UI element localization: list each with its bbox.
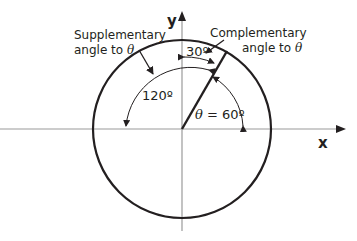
unit-circle-diagram: y x Supplementary angle to θ Complementa… <box>0 0 357 241</box>
supplementary-label-line1: Supplementary <box>74 28 166 42</box>
supplementary-label-line2: angle to θ <box>74 43 135 57</box>
angle-30-label: 30º <box>186 44 209 59</box>
complementary-label-line2: angle to θ <box>242 41 303 55</box>
x-axis <box>0 125 346 133</box>
x-axis-arrow-icon <box>336 125 346 133</box>
y-axis <box>178 11 186 231</box>
y-axis-label: y <box>167 12 177 30</box>
angle-120-label: 120º <box>142 88 173 103</box>
complementary-pointer-arrow <box>206 40 224 53</box>
complementary-label-line1: Complementary <box>210 26 307 40</box>
theta-60-label: θ = 60º <box>195 107 245 122</box>
y-axis-arrow-icon <box>178 11 186 21</box>
x-axis-label: x <box>318 134 328 152</box>
supplementary-pointer-arrow <box>139 50 153 74</box>
